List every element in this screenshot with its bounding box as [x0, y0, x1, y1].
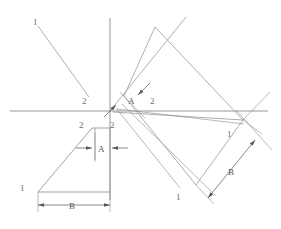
original-dim-b-label: B [69, 201, 75, 211]
origin-ray-label-1: 1 [33, 17, 38, 27]
rotated-outer-edge-upper [155, 27, 243, 120]
rotated-profile-label-2-inner: 2 [110, 120, 115, 130]
rotated-profile-label-2-outer: 2 [150, 96, 155, 106]
rotated-edge-hypotenuse [196, 120, 243, 185]
rotated-outer-edge-top [110, 17, 186, 111]
rotated-ray-lower-right [243, 92, 270, 120]
original-dim-a-label: A [98, 144, 105, 154]
original-profile-label-2: 2 [79, 120, 84, 130]
original-hypotenuse [38, 128, 92, 192]
origin-ray-group [38, 26, 89, 97]
rotated-inner-edge-diag [124, 96, 196, 185]
rotated-ray-far-right [236, 110, 272, 150]
rotated-profile-label-1-right: 1 [227, 129, 232, 139]
dim-b-rotated-ext-upper [243, 120, 262, 134]
dim-a-rotated-arrow-upper [138, 83, 150, 95]
rotated-dim-b-label: B [228, 167, 234, 177]
rotated-profile-label-1-lower: 1 [176, 192, 181, 202]
technical-drawing-canvas: 1 2 2 1 A B 2 2 A 1 1 B [0, 0, 281, 229]
original-profile-group [38, 128, 110, 192]
dim-b-rotated-ext-lower [196, 185, 214, 204]
origin-ray-label-2: 2 [82, 96, 87, 106]
origin-ray-line [38, 26, 89, 97]
rotated-dim-a-label: A [128, 96, 135, 106]
original-profile-label-1: 1 [20, 183, 25, 193]
drawing-svg: 1 2 2 1 A B 2 2 A 1 1 B [0, 0, 281, 229]
